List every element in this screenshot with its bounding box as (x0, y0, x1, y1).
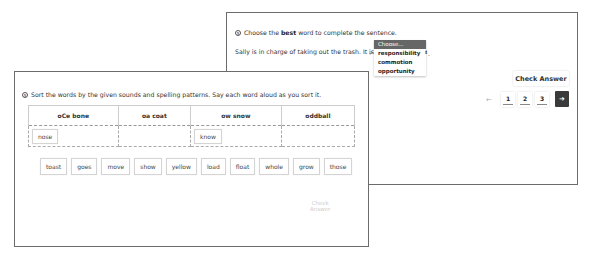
check-answer-button-disabled[interactable]: Check Answer (310, 200, 330, 212)
word-chip[interactable]: those (324, 158, 353, 175)
word-chip[interactable]: whole (259, 158, 289, 175)
word-bank: toast goes move show yellow load float w… (40, 158, 352, 175)
column-header: ow snow (191, 106, 282, 126)
column-header: oa coat (118, 106, 190, 126)
word-dropdown[interactable]: Choose... responsibility commotion oppor… (374, 40, 426, 76)
sort-table: oCe bone oa coat ow snow oddball nose kn… (28, 105, 355, 147)
page-3-button[interactable]: 3 (535, 92, 549, 107)
dropdown-option[interactable]: opportunity (374, 67, 426, 76)
prev-page-arrow-icon[interactable]: ← (486, 96, 492, 104)
drop-zone[interactable]: know (191, 126, 282, 147)
word-chip[interactable]: know (194, 129, 222, 144)
sentence-end: . (428, 50, 430, 57)
word-chip[interactable]: nose (32, 129, 58, 144)
sentence-text: Sally is in charge of taking out the tra… (235, 48, 384, 55)
drop-zone[interactable] (281, 126, 354, 147)
circled-number-icon: 5 (235, 30, 241, 36)
page-2-button[interactable]: 2 (518, 92, 532, 107)
word-chip[interactable]: goes (71, 158, 97, 175)
word-chip[interactable]: yellow (166, 158, 197, 175)
column-header: oddball (281, 106, 354, 126)
dropdown-option[interactable]: commotion (374, 58, 426, 67)
drop-zone[interactable]: nose (29, 126, 119, 147)
column-header: oCe bone (29, 106, 119, 126)
back-question-prompt: 5Choose the best word to complete the se… (235, 29, 397, 36)
dropdown-placeholder[interactable]: Choose... (374, 40, 426, 49)
word-chip[interactable]: grow (293, 158, 320, 175)
drop-zone[interactable] (118, 126, 190, 147)
check-answer-button[interactable]: Check Answer (513, 71, 569, 86)
next-page-arrow-icon[interactable]: ➜ (555, 91, 569, 107)
circled-number-icon: 5 (22, 92, 28, 98)
word-chip[interactable]: float (230, 158, 255, 175)
word-chip[interactable]: load (201, 158, 226, 175)
word-chip[interactable]: toast (40, 158, 67, 175)
word-chip[interactable]: move (101, 158, 130, 175)
sort-question-prompt: 5Sort the words by the given sounds and … (22, 91, 321, 98)
check-icon: ✓ (369, 50, 373, 56)
page-1-button[interactable]: 1 (501, 92, 515, 107)
word-chip[interactable]: show (134, 158, 162, 175)
dropdown-option[interactable]: responsibility (374, 49, 426, 58)
